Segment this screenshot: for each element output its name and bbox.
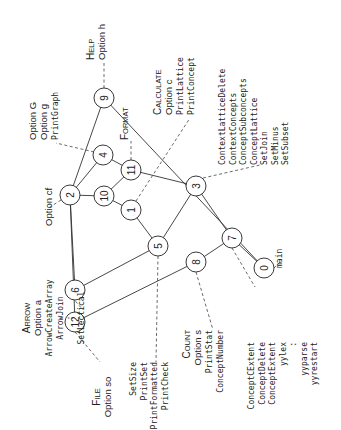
annotation-main: main (275, 249, 284, 268)
file-option-label: Option so (102, 377, 113, 418)
node-10: 10 (94, 186, 114, 206)
node-3: 3 (186, 176, 206, 196)
extent-function-name: yylex (279, 342, 288, 366)
node-label: 3 (191, 183, 202, 189)
count-function-name: PrintStat (205, 330, 214, 374)
context-function-name: SetSubset (281, 121, 290, 165)
node-11: 11 (121, 160, 141, 180)
main-function-name: main (275, 249, 284, 268)
print-leader-line (156, 256, 158, 362)
arrow-function-name: ArrowCreateArray (45, 279, 54, 356)
annotation-format: FORMAT (119, 107, 130, 140)
node-label: 8 (191, 259, 202, 265)
node-5: 5 (148, 236, 168, 256)
node-8: 8 (186, 252, 206, 272)
calculate-leader-line (136, 118, 190, 201)
extent-leader-line (232, 248, 255, 287)
node-label: 1 (126, 207, 137, 213)
context-function-name: SetJoin (260, 131, 269, 165)
extent-function-name: : (289, 342, 298, 347)
node-9: 9 (94, 88, 114, 108)
context-function-name: ContextLatticeDelete (218, 68, 227, 165)
count-leader-line (196, 272, 213, 330)
graph-option-label: Option g (38, 104, 49, 140)
node-label: 10 (99, 190, 110, 202)
format-category-label: FORMAT (119, 107, 130, 140)
help-category-label: HELP (85, 39, 96, 60)
edge-12-8 (75, 262, 196, 322)
edge-2-12 (70, 195, 75, 322)
count-category-label: COUNT (181, 330, 192, 359)
annotation-file: FILEOption so (91, 377, 113, 418)
annotation-extent: ConceptCExtentConceptDeleteConceptExtent… (247, 342, 319, 410)
annotation-help: HELPOption h (85, 24, 107, 60)
node-4: 4 (93, 145, 113, 165)
calculate-category-label: CALCULATE (152, 70, 163, 115)
node-label: 7 (227, 235, 238, 241)
node-7: 7 (222, 228, 242, 248)
node-label: 4 (98, 152, 109, 158)
node-label: 2 (65, 192, 76, 198)
print-function-name: PrintCheck (161, 362, 170, 410)
help-option-label: Option h (96, 24, 107, 60)
node-1: 1 (121, 200, 141, 220)
print-function-name: PrintFormatted (150, 362, 159, 430)
count-function-name: ConceptNumber (216, 330, 225, 393)
calculate-option-label: Option c (163, 79, 174, 115)
context-function-name: SetMinus (271, 126, 280, 165)
annotation-graph: Option GOption gPrintGraph (27, 92, 60, 140)
graph-leader-line (56, 143, 94, 152)
context-function-name: ConceptLattice (250, 97, 259, 165)
edge-5-3 (158, 186, 196, 246)
calculate-function-name: PrintLattice (176, 57, 185, 115)
arrow-function-name: SetLectical (77, 291, 86, 344)
file-category-label: FILE (91, 388, 102, 405)
optioncf-option-label: Option cf (43, 188, 54, 226)
call-graph-diagram: 0123456789101112 HELPOption hFORMATOptio… (0, 0, 341, 430)
print-function-name: SetSize (129, 362, 138, 396)
count-option-label: Option s (192, 330, 203, 366)
arrow-category-label: ARROW (21, 302, 32, 333)
extent-function-name: yyrestart (310, 342, 319, 386)
calculate-function-name: PrintConcept (187, 57, 196, 115)
context-function-name: ConceptSubconcepts (239, 78, 248, 165)
annotation-context: ContextLatticeDeleteContextConceptsConce… (218, 68, 290, 165)
print-function-name: PrintSet (140, 362, 149, 401)
edge-6-5 (75, 246, 158, 290)
context-function-name: ContextConcepts (229, 93, 238, 165)
annotation-print: SetSizePrintSetPrintFormattedPrintCheck (129, 362, 170, 430)
graph-option-label: Option G (27, 102, 38, 140)
annotation-optioncf: Option cf (43, 188, 54, 226)
arrow-option-label: Option a (32, 299, 43, 336)
node-label: 5 (153, 243, 164, 249)
arrow-function-name: ArrowJoin (56, 296, 65, 340)
node-label: 0 (259, 265, 270, 271)
extent-function-name: ConceptExtent (268, 342, 277, 405)
extent-function-name: ConceptCExtent (247, 342, 256, 410)
node-2: 2 (60, 185, 80, 205)
node-label: 9 (99, 95, 110, 101)
graph-function-name: PrintGraph (51, 92, 60, 140)
extent-function-name: yyparse (300, 342, 309, 376)
node-label: 11 (126, 164, 137, 175)
node-0: 0 (254, 258, 274, 278)
annotation-count: COUNTOption sPrintStatConceptNumber (181, 330, 225, 393)
arrow-function-name: : (66, 316, 75, 321)
annotation-calculate: CALCULATEOption cPrintLatticePrintConcep… (152, 57, 196, 115)
extent-function-name: ConceptDelete (258, 342, 267, 405)
context-leader-line (203, 165, 260, 178)
